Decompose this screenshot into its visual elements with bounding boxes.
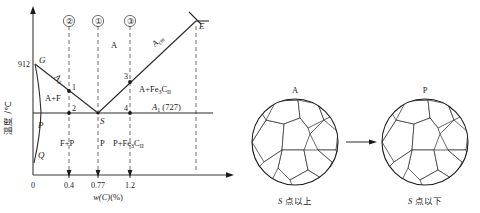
marker-2-label: ② (66, 17, 73, 26)
svg-text:w(C)(%): w(C)(%) (93, 192, 123, 202)
point-1-dot (67, 89, 71, 93)
phase-diagram-svg: ② ① ③ 温度 /℃ w(C)(%) 912 0 0.4 0.77 (0, 0, 240, 213)
austenite-caption-text: 点以上 (285, 196, 312, 206)
svg-text:Acm: Acm (149, 32, 167, 50)
a1-label-value: (727) (162, 102, 181, 112)
point-label-2: 2 (72, 104, 76, 113)
svg-text:P+Fe3CII: P+Fe3CII (113, 138, 144, 149)
a1-line-label: A1 (727) (151, 102, 181, 113)
y-axis (30, 6, 36, 175)
acm-label-sub: cm (157, 36, 167, 46)
austenite-caption: S 点以上 (278, 196, 312, 206)
region-a-fe3c2-main: A+Fe (139, 84, 159, 94)
point-2-dot (67, 111, 71, 115)
x-tick-0: 0 (31, 181, 35, 190)
a3-line-label: A3 (51, 71, 65, 85)
svg-text:A+Fe3CII: A+Fe3CII (139, 84, 171, 95)
point-s-dot (96, 111, 99, 114)
phase-diagram-panel: ② ① ③ 温度 /℃ w(C)(%) 912 0 0.4 0.77 (0, 0, 240, 213)
region-p-fe3c2-tail2: II (140, 143, 144, 149)
point-label-4: 4 (124, 104, 128, 113)
pearlite-grains (378, 88, 470, 190)
marker-1-label: ① (95, 17, 102, 26)
pearlite-phase-label: P (423, 85, 428, 95)
region-label-a-f: A+F (45, 93, 61, 103)
point-label-g: G (39, 55, 46, 65)
x-axis-label-main: w(C) (93, 192, 110, 202)
pearlite-circle: P S 点以下 (378, 85, 470, 206)
austenite-grains (248, 88, 340, 190)
microstructure-panel: A S 点以上 (240, 0, 480, 213)
x-axis-label: w(C)(%) (93, 192, 123, 202)
svg-text:A1 (727): A1 (727) (151, 102, 181, 113)
figure-root: ② ① ③ 温度 /℃ w(C)(%) 912 0 0.4 0.77 (0, 0, 480, 213)
y-axis-label: 温度 /℃ (3, 101, 13, 135)
acm-line (98, 21, 196, 113)
a3-line (35, 64, 98, 113)
marker-3: ③ (124, 15, 135, 26)
x-tick-077: 0.77 (91, 181, 105, 190)
point-label-e: E (198, 21, 205, 31)
x-tick-12: 1.2 (125, 181, 135, 190)
region-p-fe3c2-main: P+Fe (113, 138, 131, 148)
microstructure-svg: A S 点以上 (240, 0, 480, 213)
x-tick-04: 0.4 (64, 181, 74, 190)
region-a-fe3c2-tail2: II (167, 89, 171, 95)
region-label-a-fe3c2: A+Fe3CII (139, 84, 171, 95)
y-tick-912: 912 (18, 60, 30, 69)
x-ticks (67, 170, 133, 178)
region-label-p-fe3c2: P+Fe3CII (113, 138, 144, 149)
x-axis-label-unit: (%) (110, 192, 123, 202)
point-label-3: 3 (124, 72, 128, 81)
point-label-1: 1 (72, 83, 76, 92)
austenite-circle: A S 点以上 (248, 85, 340, 206)
point-3-dot (128, 80, 132, 84)
point-label-p: P (37, 120, 44, 130)
acm-line-label: Acm (149, 32, 167, 50)
point-label-q: Q (38, 150, 45, 160)
marker-1: ① (92, 15, 103, 26)
region-label-austenite: A (111, 40, 118, 50)
svg-text:A3: A3 (51, 71, 65, 85)
pearlite-caption-text: 点以下 (415, 196, 442, 206)
marker-3-label: ③ (127, 17, 134, 26)
pearlite-caption: S 点以下 (408, 196, 442, 206)
point-4-dot (128, 111, 132, 115)
region-label-pearlite: P (100, 138, 105, 148)
transformation-arrow (346, 139, 377, 144)
region-label-f-p: F+P (60, 138, 75, 148)
marker-2: ② (63, 15, 74, 26)
austenite-phase-label: A (292, 85, 299, 95)
x-axis (33, 172, 234, 178)
point-label-s: S (100, 116, 105, 126)
